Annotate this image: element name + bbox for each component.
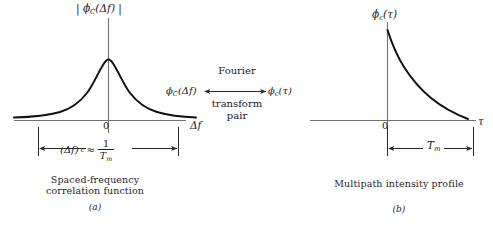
transform-pair-right-argument: (τ) [279, 85, 292, 96]
panel-a-identifier: (a) [12, 202, 178, 212]
panel-b-delay-spread-subscript: m [434, 145, 441, 153]
panel-a-y-axis-label: | ϕC(Δf) | [76, 3, 122, 16]
transform-pair-right-symbol: ϕ [268, 85, 275, 96]
panel-a-fraction-denominator-subscript: m [106, 154, 112, 161]
panel-b-delay-spread-symbol: T [427, 139, 434, 151]
panel-a-approx-sign: ≈ [86, 145, 94, 155]
panel-b-caption-line1: Multipath intensity profile [334, 178, 464, 189]
panel-a-bandwidth-lead: (Δf) [60, 145, 79, 155]
figure-container: | ϕC(Δf) | Δf 0 (Δf)c ≈ 1 Tm Spaced-freq… [0, 0, 493, 231]
panel-a-bandwidth-annotation: (Δf)c ≈ 1 Tm [60, 139, 115, 162]
panel-a-fraction-denominator: Tm [98, 150, 114, 162]
panel-a-caption-line2: correlation function [12, 185, 178, 196]
panel-b-x-axis-label: τ [478, 116, 484, 127]
panel-b-y-axis-label-tail: (τ) [383, 8, 397, 20]
transform-pair-text-line2: transform [205, 99, 269, 109]
panel-a-y-axis-label-tail: (Δf) | [95, 2, 122, 14]
transform-pair-left-argument: (Δf) [178, 85, 197, 96]
panel-a-bandwidth-subscript: c [81, 147, 85, 154]
panel-a-caption: Spaced-frequency correlation function [12, 174, 178, 196]
panel-b-axes [310, 22, 476, 133]
panel-b-intensity-curve [388, 30, 469, 119]
panel-a-origin-label: 0 [103, 121, 109, 131]
panel-b-caption: Multipath intensity profile [306, 178, 492, 189]
panel-a-y-axis-label-main: | ϕ [76, 2, 90, 14]
panel-a-coherence-fraction: 1 Tm [98, 139, 114, 162]
panel-b-y-axis-label: ϕc(τ) [372, 9, 397, 22]
panel-a-caption-line1: Spaced-frequency [51, 174, 139, 185]
panel-b-origin-label: 0 [382, 121, 388, 131]
transform-pair-right-function: ϕc(τ) [268, 86, 292, 97]
panel-b-delay-spread-annotation: Tm [427, 140, 441, 153]
transform-pair-left-function: ϕC(Δf) [166, 86, 197, 97]
transform-pair-text-line1: Fourier [211, 66, 263, 76]
panel-a-fraction-numerator: 1 [101, 139, 111, 149]
transform-pair-text-line3: pair [214, 111, 260, 121]
transform-pair-left-symbol: ϕ [166, 85, 173, 96]
panel-a-x-axis-label: Δf [190, 120, 201, 131]
panel-b-identifier: (b) [306, 204, 492, 214]
